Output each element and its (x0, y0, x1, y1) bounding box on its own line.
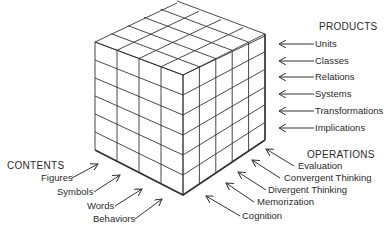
arrow-up-left-icon (238, 172, 266, 190)
content-label: Behaviors (93, 213, 135, 224)
operations-heading: OPERATIONS (307, 149, 375, 160)
product-item: Units (279, 38, 337, 49)
right-face-horizontal-line (183, 69, 265, 115)
arrow-up-right-icon (72, 164, 98, 178)
content-label: Figures (41, 172, 73, 183)
product-label: Systems (315, 88, 352, 99)
content-label: Symbols (57, 186, 94, 197)
product-label: Relations (315, 71, 355, 82)
operation-label: Evaluation (298, 160, 342, 171)
cube (95, 1, 265, 195)
cube-diagram-svg: PRODUCTS UnitsClassesRelationsSystemsTra… (0, 0, 391, 225)
top-face-line-b (139, 20, 221, 59)
product-item: Implications (279, 122, 365, 133)
arrow-up-right-icon (115, 189, 142, 206)
arrow-up-right-icon (135, 199, 162, 219)
product-item: Systems (279, 88, 352, 99)
products-heading: PRODUCTS (319, 21, 378, 32)
cube-bottom-edge (95, 140, 265, 195)
top-face-line-b (183, 36, 265, 75)
top-face-line-a (144, 17, 232, 50)
product-label: Implications (315, 122, 365, 133)
product-item: Relations (279, 71, 355, 82)
top-face-line-b (117, 11, 199, 50)
operations-legend: OPERATIONS EvaluationConvergent Thinking… (206, 149, 375, 221)
content-item: Words (87, 189, 142, 211)
contents-heading: CONTENTS (7, 160, 64, 171)
top-face-line-b (95, 3, 177, 42)
top-face-line-a (128, 26, 216, 59)
operation-label: Memorization (257, 196, 314, 207)
operation-label: Convergent Thinking (284, 172, 372, 183)
product-label: Transformations (315, 105, 384, 116)
product-item: Transformations (279, 105, 384, 116)
content-label: Words (87, 200, 115, 211)
operation-label: Divergent Thinking (268, 184, 347, 195)
arrow-up-left-icon (266, 149, 294, 166)
product-item: Classes (279, 55, 349, 66)
top-face-line-a (161, 9, 249, 42)
right-face-horizontal-line (183, 52, 265, 95)
right-face-horizontal-line (183, 87, 265, 135)
arrow-up-left-icon (226, 183, 254, 202)
operation-label: Cognition (242, 210, 282, 221)
product-label: Units (315, 38, 337, 49)
top-face-line-a (177, 1, 265, 34)
arrow-up-left-icon (252, 160, 280, 178)
arrow-up-left-icon (206, 196, 240, 216)
arrow-up-right-icon (94, 175, 120, 192)
products-legend: PRODUCTS UnitsClassesRelationsSystemsTra… (279, 21, 384, 133)
top-face-line-b (161, 28, 243, 67)
structure-of-intellect-diagram: PRODUCTS UnitsClassesRelationsSystemsTra… (0, 0, 391, 225)
product-label: Classes (315, 55, 349, 66)
